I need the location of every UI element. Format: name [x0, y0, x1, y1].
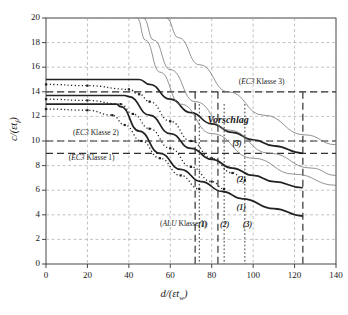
y-axis-tick-label: 4: [18, 209, 40, 219]
y-axis-tick-label: 16: [18, 61, 40, 71]
chart-annotation: (EC3 Klasse 2): [73, 128, 119, 137]
chart-series-marker: [148, 101, 150, 103]
chart-series-marker: [45, 108, 47, 110]
chart-annotation: (2): [237, 175, 246, 184]
chart-series-marker: [211, 157, 213, 159]
chart-series-marker: [132, 113, 134, 115]
chart-series-marker: [190, 166, 192, 168]
x-axis-tick-label: 100: [241, 270, 265, 280]
chart-series-marker: [45, 83, 47, 85]
chart-series-marker: [119, 103, 121, 105]
chart-annotation: (EC3 Klasse 3): [239, 77, 285, 86]
chart-series-marker: [159, 157, 161, 159]
chart-series-marker: [128, 88, 130, 90]
chart-annotation: (3): [243, 220, 252, 229]
x-axis-tick-label: 60: [158, 270, 182, 280]
chart-figure: c/(εtf) d/(εtw) 020406080100120140024681…: [0, 0, 348, 315]
chart-series-marker: [169, 147, 171, 149]
chart-series-marker: [86, 99, 88, 101]
x-axis-tick-label: 0: [34, 270, 58, 280]
y-axis-tick-label: 12: [18, 110, 40, 120]
chart-series-marker: [231, 172, 233, 174]
y-axis-tick-label: 0: [18, 258, 40, 268]
y-axis-tick-label: 14: [18, 86, 40, 96]
y-axis-tick-label: 18: [18, 37, 40, 47]
chart-series-marker: [124, 124, 126, 126]
x-axis-tick-label: 20: [75, 270, 99, 280]
chart-annotation: (EC3 Klasse 1): [69, 153, 115, 162]
chart-series-marker: [180, 174, 182, 176]
x-axis-tick-label: 40: [117, 270, 141, 280]
y-axis-tick-label: 6: [18, 184, 40, 194]
chart-series-marker: [140, 140, 142, 142]
x-axis-label: d/(εtw): [0, 288, 348, 302]
chart-annotation: (2): [220, 220, 229, 229]
x-axis-tick-label: 140: [324, 270, 348, 280]
chart-plot-area: [0, 0, 348, 315]
y-axis-label: c/(εtf): [8, 99, 22, 159]
chart-series-marker: [211, 180, 213, 182]
x-axis-tick-label: 80: [200, 270, 224, 280]
chart-annotation: Vorschlag: [208, 114, 249, 125]
y-axis-label-den: (εt: [8, 123, 19, 134]
chart-series-marker: [111, 114, 113, 116]
chart-series-marker: [86, 109, 88, 111]
chart-series-marker: [148, 128, 150, 130]
y-axis-tick-label: 20: [18, 12, 40, 22]
y-axis-tick-label: 2: [18, 233, 40, 243]
chart-series-marker: [86, 85, 88, 87]
y-axis-tick-label: 10: [18, 135, 40, 145]
chart-series-marker: [138, 93, 140, 95]
chart-annotation: (1): [237, 203, 246, 212]
y-axis-tick-label: 8: [18, 160, 40, 170]
chart-annotation: (3): [232, 139, 241, 148]
chart-annotation: (1): [198, 220, 207, 229]
x-axis-tick-label: 120: [283, 270, 307, 280]
chart-series-marker: [198, 188, 200, 190]
chart-series-marker: [223, 188, 225, 190]
chart-series-marker: [190, 140, 192, 142]
chart-series-marker: [169, 120, 171, 122]
chart-series-marker: [45, 98, 47, 100]
x-axis-label-close: ): [184, 288, 188, 299]
x-axis-label-den: (εt: [169, 288, 180, 299]
